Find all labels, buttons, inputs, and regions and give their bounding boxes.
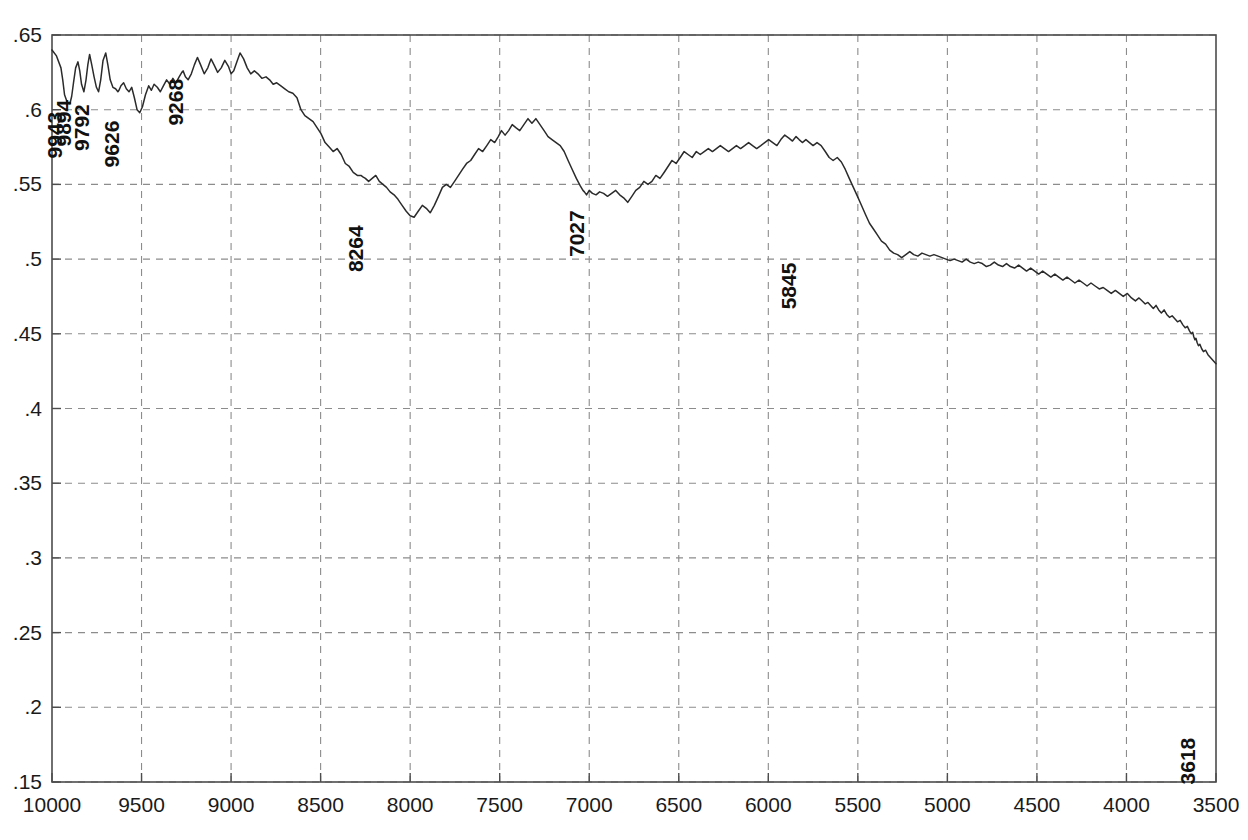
x-tick-label: 4000 <box>1103 793 1150 816</box>
x-tick-label: 10000 <box>23 793 81 816</box>
y-tick-label: .45 <box>13 322 42 345</box>
y-tick-label: .55 <box>13 172 42 195</box>
peak-annotations: 994398949792962692688264702758453618 <box>43 79 1199 785</box>
x-tick-label: 9000 <box>208 793 255 816</box>
x-tick-label: 5500 <box>834 793 881 816</box>
y-tick-label: .65 <box>13 23 42 46</box>
y-tick-label: .3 <box>24 546 42 569</box>
spectrum-chart: .15.2.25.3.35.4.45.5.55.6.65100009500900… <box>0 0 1248 840</box>
x-tick-label: 8000 <box>387 793 434 816</box>
peak-label: 9626 <box>100 121 123 168</box>
y-tick-label: .15 <box>13 770 42 793</box>
y-tick-label: .6 <box>24 98 42 121</box>
x-tick-label: 6500 <box>655 793 702 816</box>
x-tick-label: 7500 <box>476 793 523 816</box>
x-tick-label: 5000 <box>924 793 971 816</box>
x-tick-label: 3500 <box>1193 793 1240 816</box>
y-tick-label: .5 <box>24 247 42 270</box>
peak-label: 8264 <box>344 225 367 272</box>
plot-area: .15.2.25.3.35.4.45.5.55.6.65100009500900… <box>0 0 1248 840</box>
x-tick-label: 7000 <box>566 793 613 816</box>
peak-label: 7027 <box>565 210 588 257</box>
peak-label: 3618 <box>1176 737 1199 784</box>
peak-label: 9268 <box>164 79 187 126</box>
y-tick-label: .35 <box>13 471 42 494</box>
x-tick-label: 9500 <box>118 793 165 816</box>
x-tick-label: 4500 <box>1014 793 1061 816</box>
y-tick-label: .25 <box>13 621 42 644</box>
grid-lines: .15.2.25.3.35.4.45.5.55.6.65100009500900… <box>13 23 1240 816</box>
spectrum-trace <box>52 50 1216 364</box>
y-tick-label: .2 <box>24 695 42 718</box>
y-tick-label: .4 <box>24 397 42 420</box>
peak-label: 5845 <box>777 262 800 309</box>
x-tick-label: 8500 <box>297 793 344 816</box>
x-tick-label: 6000 <box>745 793 792 816</box>
peak-label: 9792 <box>70 104 93 151</box>
